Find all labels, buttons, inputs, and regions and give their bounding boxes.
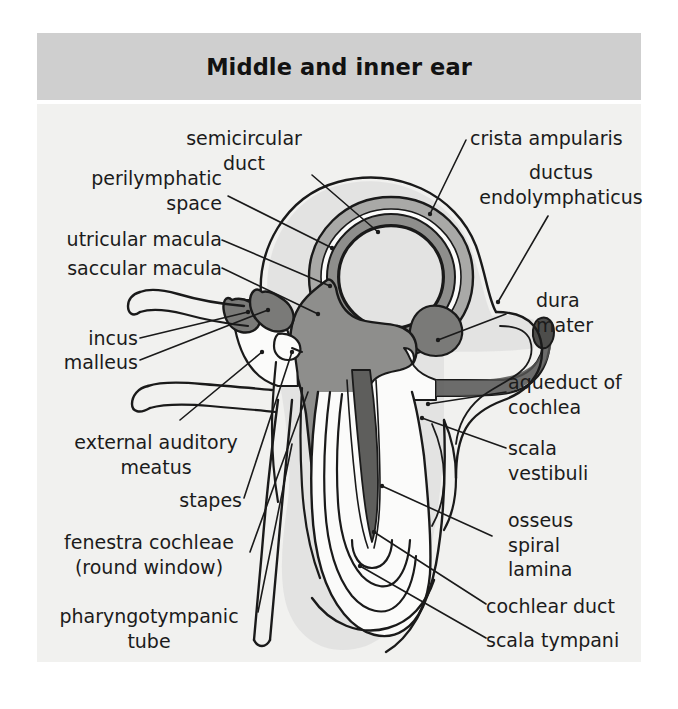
leader-dot <box>328 284 332 288</box>
external-auditory-meatus-lower-inner <box>150 405 276 412</box>
label-fenestra-cochleae: fenestra cochleae (round window) <box>50 530 248 579</box>
label-malleus: malleus <box>38 350 138 375</box>
label-crista-ampularis: crista ampularis <box>470 126 646 151</box>
leader-dot <box>372 530 376 534</box>
leader-dot <box>436 338 440 342</box>
label-cochlear-duct: cochlear duct <box>486 594 646 619</box>
label-incus: incus <box>50 326 138 351</box>
label-aqueduct-of-cochlea: aqueduct of cochlea <box>508 370 646 419</box>
anatomy-figure: Middle and inner ear <box>0 0 678 709</box>
leader-dot <box>420 416 424 420</box>
label-scala-vestibuli: scala vestibuli <box>508 436 628 485</box>
leader-dot <box>316 312 320 316</box>
leader-dot <box>246 310 250 314</box>
label-external-auditory-meatus: external auditory meatus <box>62 430 250 479</box>
leader-dot <box>266 308 270 312</box>
label-stapes: stapes <box>130 488 242 513</box>
label-osseus-spiral-lamina: osseus spiral lamina <box>508 508 628 582</box>
external-auditory-meatus-lip-bottom <box>132 386 150 411</box>
leader-dot <box>330 246 334 250</box>
label-perilymphatic-space: perilymphatic space <box>70 166 222 215</box>
label-dura-mater: dura mater <box>536 288 644 337</box>
leader-dot <box>496 300 500 304</box>
leader-dot <box>426 402 430 406</box>
label-ductus-endolymphaticus: ductus endolymphaticus <box>470 160 652 209</box>
external-auditory-meatus-lower <box>148 383 272 390</box>
aqueduct-of-cochlea-channel <box>444 420 456 530</box>
leader-crista-ampularis <box>430 140 466 214</box>
label-pharyngotympanic-tube: pharyngotympanic tube <box>38 604 260 653</box>
label-utricular-macula: utricular macula <box>56 227 222 252</box>
leader-dot <box>290 350 294 354</box>
label-scala-tympani: scala tympani <box>486 628 646 653</box>
leader-dot <box>376 230 380 234</box>
leader-dot <box>358 564 362 568</box>
external-auditory-meatus-lip-top <box>128 292 140 314</box>
leader-dot <box>380 484 384 488</box>
leader-dot <box>260 350 264 354</box>
label-saccular-macula: saccular macula <box>56 256 222 281</box>
leader-dot <box>428 212 432 216</box>
